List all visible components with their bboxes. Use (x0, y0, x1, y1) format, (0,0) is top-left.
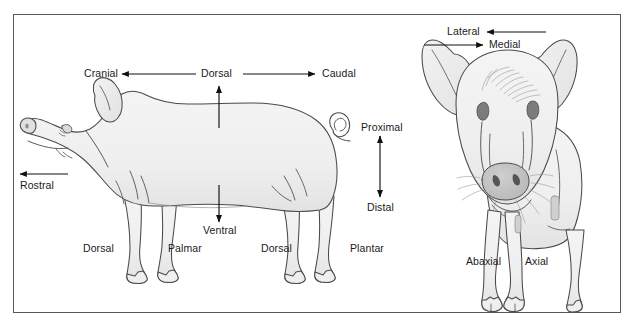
label-ventral: Ventral (203, 225, 236, 236)
label-lateral: Lateral (447, 26, 480, 37)
label-caudal: Caudal (322, 68, 356, 79)
label-medial: Medial (489, 39, 521, 50)
label-dorsal-top: Dorsal (201, 68, 232, 79)
label-rostral: Rostral (20, 180, 54, 191)
label-distal: Distal (367, 202, 394, 213)
figure-canvas: Cranial Dorsal Caudal Proximal Distal Ro… (0, 0, 632, 326)
label-palmar: Palmar (168, 243, 202, 254)
pig-anatomy-illustration (0, 0, 632, 326)
pig-frontal-view (422, 40, 584, 312)
label-proximal: Proximal (361, 122, 403, 133)
label-dorsal-forelimb: Dorsal (83, 243, 114, 254)
label-plantar: Plantar (350, 243, 384, 254)
label-abaxial: Abaxial (466, 256, 501, 267)
label-dorsal-hindlimb: Dorsal (261, 243, 292, 254)
label-cranial: Cranial (84, 68, 118, 79)
label-axial: Axial (525, 256, 548, 267)
